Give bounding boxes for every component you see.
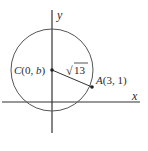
y-axis-label: y [56, 8, 63, 22]
radius-label-radical: √ [66, 64, 73, 78]
point-a-label: A(3, 1) [95, 74, 127, 87]
center-point [50, 68, 54, 72]
center-label-coords: (0, [21, 64, 36, 77]
radius-label: 13 [74, 64, 86, 76]
circle-diagram: y x C(0, b) √ 13 A(3, 1) [0, 0, 148, 151]
center-label: C(0, b) [14, 64, 46, 77]
x-axis-label: x [131, 89, 138, 103]
center-label-close: ) [42, 64, 46, 77]
point-a-label-coords: (3, 1) [103, 74, 127, 87]
point-a [90, 85, 94, 89]
